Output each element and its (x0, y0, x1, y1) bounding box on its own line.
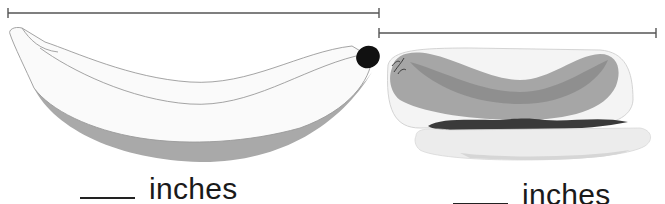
banana-image (10, 27, 384, 162)
banana-unit-label: inches (149, 174, 238, 204)
hotdog-answer-blank[interactable] (453, 202, 508, 204)
banana-answer-blank[interactable] (80, 196, 135, 199)
hotdog-unit-label: inches (522, 180, 611, 204)
banana-measure-line (8, 8, 379, 18)
hotdog-measure-line (379, 28, 656, 38)
hotdog-answer: inches (453, 180, 611, 204)
banana-answer: inches (80, 174, 238, 204)
hotdog-image (387, 48, 650, 160)
